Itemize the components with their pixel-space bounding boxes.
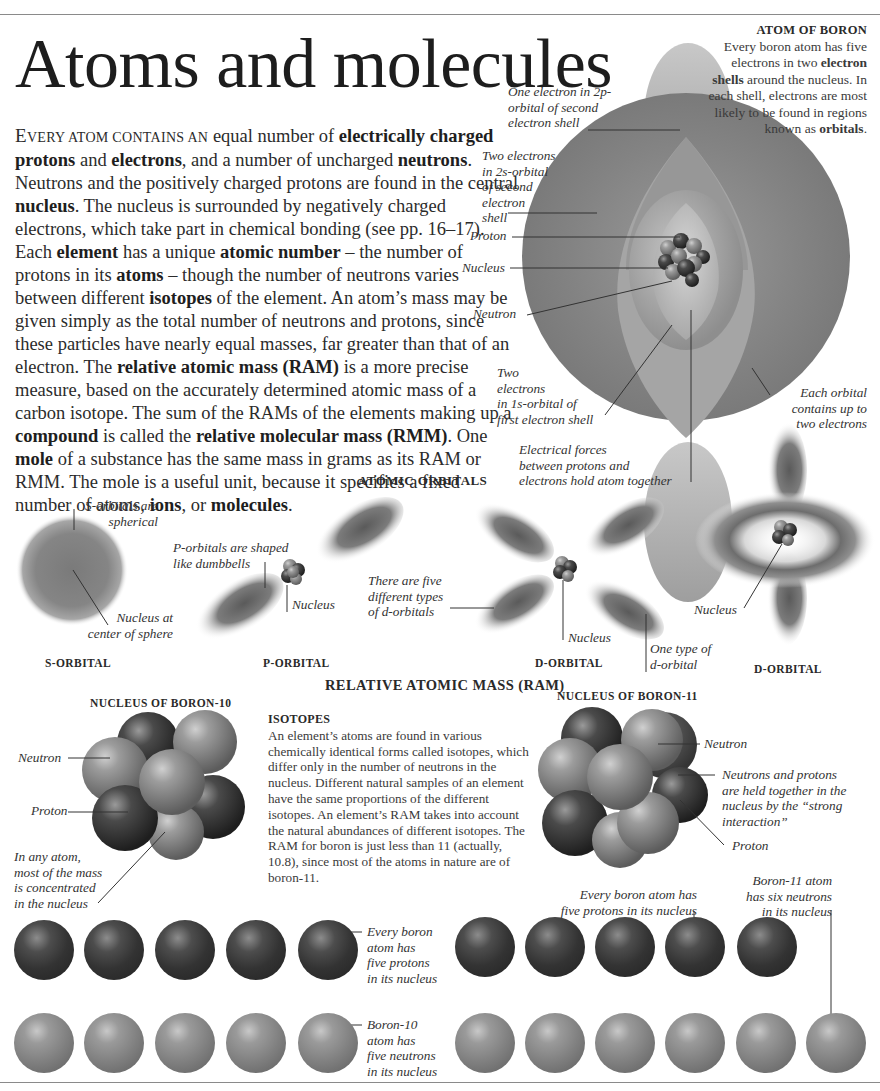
- intro-bold-term: compound: [15, 426, 98, 446]
- atomic-orbitals-heading: ATOMIC ORBITALS: [358, 473, 487, 489]
- intro-bold-term: nucleus: [15, 196, 75, 216]
- atom-of-boron-heading: ATOM OF BORON: [697, 22, 867, 39]
- intro-bold-term: relative molecular mass (RMM): [196, 426, 448, 446]
- d-orbital-caption-2: D-ORBITAL: [754, 663, 822, 675]
- intro-bold-term: element: [57, 242, 119, 262]
- label-b10-neutron: Neutron: [18, 750, 61, 766]
- proton-sphere: [226, 920, 286, 980]
- label-s-nucleus: Nucleus atcenter of sphere: [70, 610, 173, 641]
- label-b11-strong: Neutrons and protonsare held together in…: [722, 767, 846, 829]
- boron-11-nucleus-diagram: [538, 707, 724, 868]
- label-electrical-forces: Electrical forcesbetween protons andelec…: [519, 442, 672, 489]
- neutron-sphere: [84, 1013, 144, 1073]
- intro-text: . One: [447, 426, 487, 446]
- label-p-dumbbells: P-orbitals are shapedlike dumbbells: [173, 540, 288, 571]
- intro-text: , or: [182, 495, 211, 515]
- label-b11-neutron: Neutron: [704, 736, 747, 752]
- intro-lead: EVERY ATOM CONTAINS AN: [15, 130, 208, 145]
- label-proton: Proton: [470, 228, 506, 244]
- proton-sphere: [298, 920, 358, 980]
- intro-bold-term: mole: [15, 449, 53, 469]
- intro-bold-term: molecules: [211, 495, 288, 515]
- label-each-orbital: Each orbitalcontains up totwo electrons: [792, 385, 867, 432]
- label-b10-mass: In any atom,most of the massis concentra…: [14, 849, 102, 911]
- label-s-spherical: S-orbitals arespherical: [76, 498, 158, 529]
- neutron-sphere: [736, 1013, 796, 1073]
- neutron-sphere: [155, 1013, 215, 1073]
- s-orbital-caption: S-ORBITAL: [45, 657, 111, 669]
- label-d-five-types: There are fivedifferent typesof d-orbita…: [368, 573, 443, 620]
- intro-bold-term: isotopes: [149, 288, 212, 308]
- intro-bold-term: atoms: [116, 265, 163, 285]
- neutron-sphere: [298, 1013, 358, 1073]
- label-electron-2p: One electron in 2p-orbital of secondelec…: [508, 84, 611, 131]
- label-b10-proton: Proton: [31, 803, 67, 819]
- intro-text: .: [288, 495, 293, 515]
- neutron-sphere: [595, 1013, 655, 1073]
- proton-sphere: [84, 920, 144, 980]
- label-b11-protons-row: Every boron atom hasfive protons in its …: [540, 887, 697, 918]
- isotopes-text: An element’s atoms are found in various …: [268, 728, 533, 886]
- intro-smallcaps: VERY ATOM CONTAINS AN: [27, 130, 208, 145]
- neutron-sphere: [14, 1013, 74, 1073]
- label-nucleus: Nucleus: [462, 260, 505, 276]
- label-b10-protons-row: Every boronatom hasfive protonsin its nu…: [367, 924, 437, 986]
- label-electrons-1s: Twoelectronsin 1s-orbital offirst electr…: [497, 365, 593, 427]
- neutron-sphere: [806, 1013, 866, 1073]
- intro-text: has a unique: [118, 242, 220, 262]
- ram-heading: RELATIVE ATOMIC MASS (RAM): [325, 677, 565, 694]
- neutron-sphere: [455, 1013, 515, 1073]
- intro-bold-term: atomic number: [220, 242, 341, 262]
- intro-text: is called the: [98, 426, 196, 446]
- proton-sphere: [455, 917, 515, 977]
- label-b11-neutrons-row: Boron-11 atomhas six neutronsin its nucl…: [730, 873, 832, 920]
- proton-sphere: [665, 917, 725, 977]
- neutron-sphere: [665, 1013, 725, 1073]
- label-b11-proton: Proton: [732, 838, 768, 854]
- proton-sphere: [14, 920, 74, 980]
- proton-sphere: [525, 917, 585, 977]
- label-d-one-type: One type ofd-orbital: [650, 641, 711, 672]
- isotopes-heading: ISOTOPES: [268, 712, 533, 728]
- intro-paragraph: EVERY ATOM CONTAINS AN equal number of e…: [15, 124, 520, 517]
- label-p-nucleus: Nucleus: [292, 597, 335, 613]
- intro-drop-letter: E: [15, 125, 27, 146]
- intro-bold-term: relative atomic mass (RAM): [117, 357, 339, 377]
- atom-of-boron-description: ATOM OF BORON Every boron atom has five …: [697, 22, 867, 138]
- p-orbital-caption: P-ORBITAL: [263, 657, 330, 669]
- intro-text: , and a number of uncharged: [182, 150, 398, 170]
- intro-text: equal number of: [208, 126, 339, 146]
- intro-bold-term: electrons: [111, 150, 182, 170]
- intro-bold-term: neutrons: [398, 150, 468, 170]
- label-d-nucleus: Nucleus: [568, 630, 611, 646]
- neutron-sphere: [226, 1013, 286, 1073]
- intro-text: and: [75, 150, 111, 170]
- proton-sphere: [595, 917, 655, 977]
- d-orbital-caption-1: D-ORBITAL: [535, 657, 603, 669]
- boron-11-caption: NUCLEUS OF BORON-11: [557, 690, 698, 702]
- neutron-sphere: [525, 1013, 585, 1073]
- label-b10-neutrons-row: Boron-10atom hasfive neutronsin its nucl…: [367, 1017, 437, 1079]
- isotopes-box: ISOTOPES An element’s atoms are found in…: [268, 712, 533, 886]
- boron-10-caption: NUCLEUS OF BORON-10: [90, 697, 231, 709]
- proton-sphere: [155, 920, 215, 980]
- label-neutron: Neutron: [473, 306, 516, 322]
- label-d2-nucleus: Nucleus: [694, 602, 737, 618]
- proton-sphere: [737, 917, 797, 977]
- label-electrons-2s: Two electronsin 2s-orbitalof secondelect…: [482, 148, 556, 226]
